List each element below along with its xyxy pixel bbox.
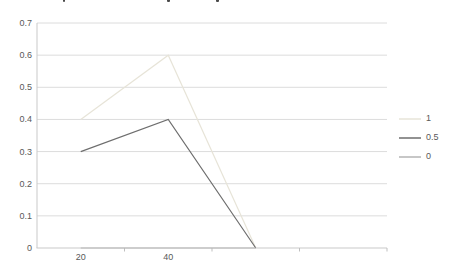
legend: 1 0.5 0: [399, 112, 439, 163]
svg-text:20: 20: [76, 252, 86, 262]
legend-label: 0: [426, 152, 431, 161]
svg-text:0: 0: [27, 243, 32, 253]
svg-text:0.4: 0.4: [19, 114, 32, 124]
legend-line-icon: [399, 136, 421, 140]
svg-text:40: 40: [163, 252, 173, 262]
svg-text:0.6: 0.6: [19, 50, 32, 60]
legend-item-series-0: 0: [399, 150, 439, 163]
legend-line-icon: [399, 117, 421, 121]
svg-text:0.1: 0.1: [19, 211, 32, 221]
legend-item-series-1: 1: [399, 112, 439, 125]
svg-text:0.2: 0.2: [19, 179, 32, 189]
legend-label: 0.5: [426, 133, 439, 142]
svg-text:0.7: 0.7: [19, 18, 32, 28]
svg-text:0.5: 0.5: [19, 82, 32, 92]
line-chart: 00.10.20.30.40.50.60.72040 1 0.5 0: [0, 0, 450, 278]
legend-line-icon: [399, 155, 421, 159]
legend-label: 1: [426, 114, 431, 123]
svg-text:0.3: 0.3: [19, 147, 32, 157]
legend-item-series-0.5: 0.5: [399, 131, 439, 144]
chart-plot-area: 00.10.20.30.40.50.60.72040: [0, 0, 450, 278]
